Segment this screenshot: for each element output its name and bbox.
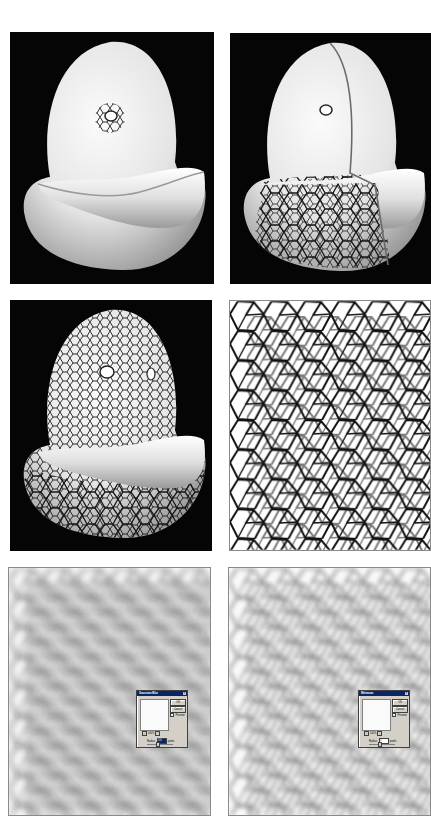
zoom-out-button[interactable]: −: [142, 731, 147, 736]
panel-full-texture: [10, 300, 212, 551]
zoom-out-button[interactable]: −: [364, 731, 369, 736]
preview-checkbox[interactable]: ✓Preview: [170, 713, 185, 717]
panel-smooth-model: [10, 32, 214, 284]
radius-label: Radius:: [369, 740, 378, 743]
ok-button[interactable]: OK: [170, 699, 186, 706]
model-render: [10, 300, 212, 551]
panel-minimum-filter: Minimum × OK Cancel ✓Preview − 100% + Ra…: [228, 567, 431, 816]
zoom-controls: − 100% +: [142, 731, 160, 736]
dialog-titlebar: Gaussian Blur ×: [137, 691, 187, 696]
radius-slider[interactable]: [369, 744, 395, 745]
zoom-controls: − 100% +: [364, 731, 382, 736]
gaussian-blur-dialog: Gaussian Blur × OK Cancel ✓Preview − 100…: [136, 690, 188, 748]
zoom-value: 100%: [370, 732, 377, 735]
cancel-button[interactable]: Cancel: [392, 706, 408, 713]
preview-pane[interactable]: [362, 699, 391, 731]
minimum-dialog: Minimum × OK Cancel ✓Preview − 100% + Ra…: [358, 690, 410, 748]
dialog-title: Gaussian Blur: [139, 691, 158, 695]
model-render: [230, 33, 431, 284]
cancel-button[interactable]: Cancel: [170, 706, 186, 713]
close-icon[interactable]: ×: [183, 692, 186, 695]
checkbox-icon[interactable]: ✓: [392, 713, 396, 717]
cell-texture: [230, 301, 430, 550]
slider-thumb[interactable]: [156, 742, 160, 747]
checkbox-icon[interactable]: ✓: [170, 713, 174, 717]
preview-label: Preview: [175, 714, 184, 717]
dialog-title: Minimum: [361, 691, 373, 695]
preview-pane[interactable]: [140, 699, 169, 731]
ok-button[interactable]: OK: [392, 699, 408, 706]
zoom-value: 100%: [148, 732, 155, 735]
panel-texture-map: [229, 300, 431, 551]
close-icon[interactable]: ×: [405, 692, 408, 695]
panel-gaussian-blur: Gaussian Blur × OK Cancel ✓Preview − 100…: [8, 567, 211, 816]
preview-checkbox[interactable]: ✓Preview: [392, 713, 407, 717]
radius-label: Radius:: [147, 740, 156, 743]
radius-unit: pixels: [390, 740, 397, 743]
panel-partial-texture: [230, 33, 431, 284]
radius-unit: pixels: [168, 740, 175, 743]
dialog-titlebar: Minimum ×: [359, 691, 409, 696]
crack-patch: [95, 103, 125, 133]
preview-label: Preview: [397, 714, 406, 717]
zoom-in-button[interactable]: +: [377, 731, 382, 736]
zoom-in-button[interactable]: +: [155, 731, 160, 736]
radius-slider[interactable]: [147, 744, 173, 745]
slider-thumb[interactable]: [378, 742, 382, 747]
model-render: [10, 32, 214, 284]
